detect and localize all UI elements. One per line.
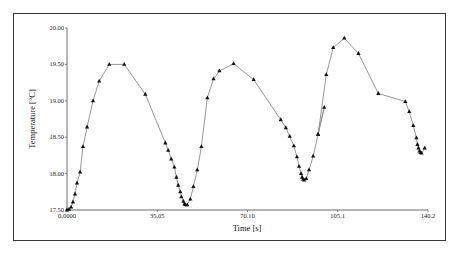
triangle-marker-icon: [411, 123, 415, 127]
y-tick-label: 19.00: [49, 97, 64, 104]
triangle-marker-icon: [195, 168, 199, 172]
triangle-marker-icon: [199, 144, 203, 148]
triangle-marker-icon: [166, 148, 170, 152]
triangle-marker-icon: [307, 168, 311, 172]
triangle-marker-icon: [292, 144, 296, 148]
triangle-marker-icon: [414, 136, 418, 140]
triangle-marker-icon: [78, 170, 82, 174]
y-tick-label: 18.00: [49, 170, 64, 177]
triangle-marker-icon: [423, 146, 427, 150]
triangle-marker-icon: [205, 95, 209, 99]
line-chart: 17.5018.0018.5019.0019.5020.00 0.000035.…: [0, 0, 459, 255]
triangle-marker-icon: [407, 109, 411, 113]
triangle-marker-icon: [178, 189, 182, 193]
triangle-marker-icon: [322, 105, 326, 109]
triangle-marker-icon: [324, 72, 328, 76]
triangle-marker-icon: [188, 197, 192, 201]
triangle-marker-icon: [191, 184, 195, 188]
triangle-marker-icon: [172, 165, 176, 169]
triangle-marker-icon: [299, 171, 303, 175]
triangle-marker-icon: [174, 175, 178, 179]
y-tick-label: 19.50: [49, 60, 64, 67]
triangle-marker-icon: [288, 134, 292, 138]
x-tick-label: 35.05: [150, 212, 165, 219]
x-tick-label: 70.10: [240, 212, 255, 219]
triangle-marker-icon: [122, 62, 126, 66]
triangle-marker-icon: [179, 194, 183, 198]
x-tick-label: 0.0000: [58, 212, 76, 219]
axes: [67, 28, 428, 210]
triangle-marker-icon: [297, 164, 301, 168]
triangle-marker-icon: [81, 144, 85, 148]
triangle-marker-icon: [107, 62, 111, 66]
triangle-marker-icon: [415, 142, 419, 146]
triangle-marker-icon: [416, 146, 420, 150]
x-ticks: 0.000035.0570.10105.1140.2: [58, 210, 435, 219]
y-tick-label: 20.00: [49, 24, 64, 31]
triangle-marker-icon: [231, 61, 235, 65]
y-axis-label: Temperature [°C]: [27, 89, 37, 149]
x-tick-label: 140.2: [421, 212, 436, 219]
data-markers: [65, 36, 427, 212]
x-axis-label: Time [s]: [233, 223, 262, 233]
triangle-marker-icon: [252, 77, 256, 81]
triangle-marker-icon: [91, 98, 95, 102]
y-tick-label: 18.50: [49, 133, 64, 140]
triangle-marker-icon: [75, 181, 79, 185]
triangle-marker-icon: [304, 176, 308, 180]
triangle-marker-icon: [73, 192, 77, 196]
triangle-marker-icon: [69, 205, 73, 209]
triangle-marker-icon: [181, 199, 185, 203]
triangle-marker-icon: [311, 154, 315, 158]
triangle-marker-icon: [163, 141, 167, 145]
y-ticks: 17.5018.0018.5019.0019.5020.00: [49, 24, 67, 213]
triangle-marker-icon: [176, 183, 180, 187]
triangle-marker-icon: [85, 125, 89, 129]
triangle-marker-icon: [71, 200, 75, 204]
temperature-line: [67, 38, 425, 210]
triangle-marker-icon: [169, 157, 173, 161]
triangle-marker-icon: [316, 132, 320, 136]
triangle-marker-icon: [295, 154, 299, 158]
triangle-marker-icon: [376, 91, 380, 95]
x-tick-label: 105.1: [330, 212, 345, 219]
triangle-marker-icon: [342, 36, 346, 40]
